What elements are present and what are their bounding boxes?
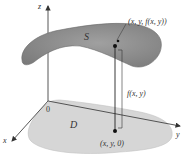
region-label: D [69,119,78,130]
y-axis-label: y [175,130,180,139]
surface-point-label: (x, y, f(x, y)) [128,17,167,26]
z-axis-label: z [37,2,42,11]
surface-diagram: z x y 0 S D (x, y, f(x, y)) (x, y, 0) f(… [0,0,185,162]
x-axis-label: x [2,136,7,145]
surface-point [113,44,117,48]
height-label: f(x, y) [127,89,146,98]
upper-point [117,40,120,43]
surface-label: S [84,31,89,42]
base-point [113,129,117,133]
base-point-label: (x, y, 0) [100,139,124,148]
origin-label: 0 [46,105,50,114]
surface-s-shape [22,23,162,67]
